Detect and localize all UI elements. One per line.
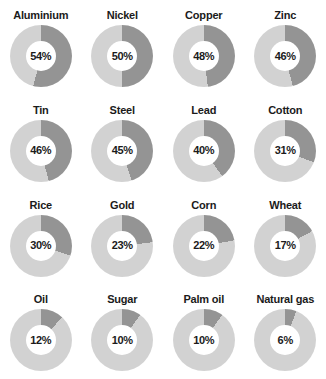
donut-chart-grid: Aluminium 54% Nickel 50% Copper 48% Zinc [0,0,326,379]
donut-cell: Wheat 17% [245,190,326,285]
donut-chart: 40% [173,120,235,182]
donut-cell: Palm oil 10% [163,284,245,379]
donut-chart: 50% [91,25,153,87]
donut-cell: Natural gas 6% [245,284,326,379]
donut-value: 46% [30,145,51,156]
donut-chart: 48% [173,25,235,87]
donut-hole: 48% [189,41,219,71]
donut-hole: 10% [189,325,219,355]
donut-hole: 31% [270,136,300,166]
donut-hole: 12% [26,325,56,355]
donut-chart: 46% [254,25,316,87]
donut-cell: Oil 12% [0,284,82,379]
donut-cell: Gold 23% [82,190,164,285]
donut-value: 12% [30,335,51,346]
donut-value: 23% [112,240,133,251]
donut-chart: 45% [91,120,153,182]
donut-label: Rice [30,199,52,211]
donut-label: Nickel [107,9,138,21]
donut-chart: 12% [10,309,72,371]
donut-label: Lead [191,104,216,116]
donut-chart: 23% [91,215,153,277]
donut-hole: 17% [270,231,300,261]
donut-label: Corn [191,199,216,211]
donut-label: Palm oil [183,293,224,305]
donut-value: 50% [112,51,133,62]
donut-value: 48% [193,51,214,62]
donut-hole: 30% [26,231,56,261]
donut-hole: 40% [189,136,219,166]
donut-value: 40% [193,145,214,156]
donut-value: 30% [30,240,51,251]
donut-hole: 23% [107,231,137,261]
donut-cell: Nickel 50% [82,0,164,95]
donut-value: 54% [30,51,51,62]
donut-value: 10% [193,335,214,346]
donut-chart: 54% [10,25,72,87]
donut-chart: 30% [10,215,72,277]
donut-chart: 6% [254,309,316,371]
donut-chart: 10% [173,309,235,371]
donut-cell: Rice 30% [0,190,82,285]
donut-chart: 17% [254,215,316,277]
donut-value: 10% [112,335,133,346]
donut-value: 46% [275,51,296,62]
donut-cell: Aluminium 54% [0,0,82,95]
donut-value: 45% [112,145,133,156]
donut-hole: 46% [26,136,56,166]
donut-cell: Steel 45% [82,95,164,190]
donut-cell: Copper 48% [163,0,245,95]
donut-cell: Zinc 46% [245,0,326,95]
donut-value: 31% [275,145,296,156]
donut-label: Steel [110,104,135,116]
donut-value: 6% [278,335,293,346]
donut-label: Oil [34,293,48,305]
donut-chart: 10% [91,309,153,371]
donut-label: Cotton [268,104,302,116]
donut-cell: Cotton 31% [245,95,326,190]
donut-cell: Sugar 10% [82,284,164,379]
donut-label: Copper [185,9,222,21]
donut-cell: Corn 22% [163,190,245,285]
donut-hole: 45% [107,136,137,166]
donut-chart: 22% [173,215,235,277]
donut-hole: 54% [26,41,56,71]
donut-label: Wheat [269,199,301,211]
donut-cell: Tin 46% [0,95,82,190]
donut-value: 22% [193,240,214,251]
donut-chart: 31% [254,120,316,182]
donut-label: Sugar [107,293,137,305]
donut-label: Zinc [274,9,296,21]
donut-label: Natural gas [256,293,314,305]
donut-label: Aluminium [13,9,68,21]
donut-value: 17% [275,240,296,251]
donut-hole: 22% [189,231,219,261]
donut-cell: Lead 40% [163,95,245,190]
donut-label: Tin [33,104,49,116]
donut-label: Gold [110,199,134,211]
donut-chart: 46% [10,120,72,182]
